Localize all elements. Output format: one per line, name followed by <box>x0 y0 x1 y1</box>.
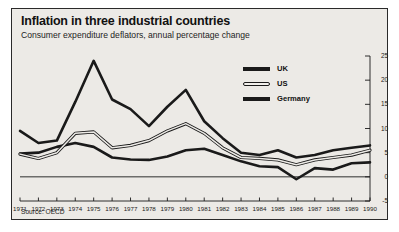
chart-legend: UK US Germany <box>243 61 353 106</box>
legend-swatch-us <box>243 82 270 86</box>
legend-swatch-uk <box>243 67 270 71</box>
chart-plot-area <box>12 9 389 221</box>
y-axis-tick-label: 10 <box>372 125 388 132</box>
y-axis-tick-label: 25 <box>372 52 388 59</box>
legend-item-germany: Germany <box>243 91 353 106</box>
chart-source-note: Source: OECD <box>21 208 65 215</box>
legend-label-germany: Germany <box>277 94 310 103</box>
legend-swatch-germany <box>243 97 270 101</box>
y-axis-tick-label: -5 <box>372 197 388 204</box>
legend-label-uk: UK <box>277 64 288 73</box>
x-axis-tick-label: 1990 <box>359 205 381 212</box>
y-axis-tick-label: 20 <box>372 76 388 83</box>
y-axis-tick-label: 5 <box>372 149 388 156</box>
legend-item-us: US <box>243 76 353 91</box>
y-axis-tick-label: 0 <box>372 173 388 180</box>
y-axis-tick-label: 15 <box>372 100 388 107</box>
legend-label-us: US <box>277 79 288 88</box>
legend-item-uk: UK <box>243 61 353 76</box>
chart-figure: Inflation in three industrial countries … <box>11 8 388 220</box>
